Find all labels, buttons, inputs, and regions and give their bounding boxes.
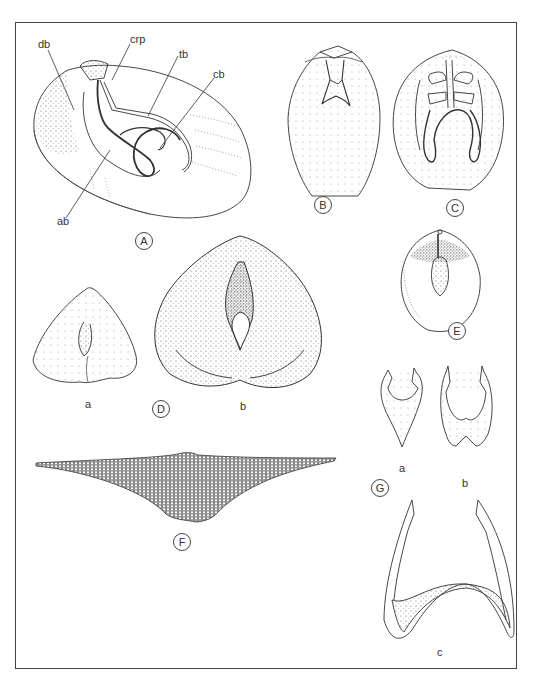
figure-g-c-drawing xyxy=(384,500,514,638)
figure-g-sublabel-a: a xyxy=(399,462,405,474)
figure-label-g: G xyxy=(371,479,389,497)
figure-e-drawing xyxy=(401,230,480,332)
figure-label-c: C xyxy=(446,199,464,217)
figure-f-drawing xyxy=(36,453,336,522)
figure-g-a-drawing xyxy=(381,368,422,447)
annotation-db: db xyxy=(38,38,50,50)
figure-label-b: B xyxy=(314,196,332,214)
figure-d-b-drawing xyxy=(155,236,322,388)
figure-label-f: F xyxy=(173,533,191,551)
figure-g-b-drawing xyxy=(441,366,492,446)
annotation-ab: ab xyxy=(57,215,69,227)
figure-c-drawing xyxy=(393,50,503,190)
figure-label-d: D xyxy=(152,400,170,418)
annotation-tb: tb xyxy=(179,48,188,60)
figure-label-a: A xyxy=(135,232,153,250)
figure-a-drawing xyxy=(34,61,251,218)
figure-d-a-drawing xyxy=(33,288,137,383)
figure-d-sublabel-b: b xyxy=(240,400,246,412)
annotation-crp: crp xyxy=(130,33,145,45)
figure-d-sublabel-a: a xyxy=(85,398,91,410)
figure-g-sublabel-b: b xyxy=(462,477,468,489)
figure-g-sublabel-c: c xyxy=(437,646,443,658)
annotation-cb: cb xyxy=(213,68,225,80)
figure-b-drawing xyxy=(288,46,380,196)
figure-label-e: E xyxy=(448,322,466,340)
illustration-canvas xyxy=(0,0,541,688)
